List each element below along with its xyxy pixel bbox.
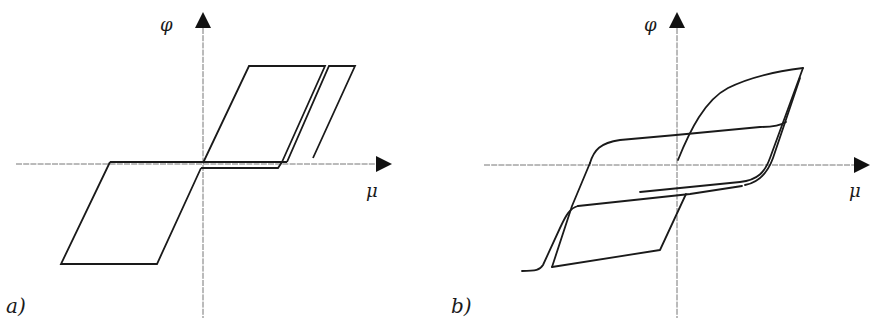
panel-b-mid-upper [590,122,786,163]
panel-b-x-axis-label: μ [849,182,861,200]
panel-b [484,12,870,318]
panel-b-y-axis-label: φ [644,16,657,34]
panel-b-mid-lower [578,186,742,206]
panel-a-y-axis-label: φ [160,16,173,34]
hysteresis-figure: φ μ a) φ μ b) [0,0,880,331]
panel-b-left-descend [552,163,590,267]
panel-b-unload-2 [745,78,800,185]
panel-b-virgin-curve [678,68,803,160]
panel-a-y-arrow-icon [195,12,211,28]
diagram-canvas [0,0,880,331]
panel-a-upper-loop-2 [287,66,355,162]
panel-b-x-arrow-icon [854,157,870,173]
panel-a-lower-loop [61,162,201,264]
panel-b-y-arrow-icon [669,12,685,28]
panel-a-x-arrow-icon [376,156,392,172]
panel-a-upper-loop [203,66,325,163]
panel-a-loops [61,66,355,264]
panel-a-label: a) [6,296,26,316]
panel-b-loops [522,68,803,271]
panel-a-x-axis-label: μ [366,182,378,200]
panel-b-label: b) [451,296,472,316]
panel-a [16,12,392,318]
